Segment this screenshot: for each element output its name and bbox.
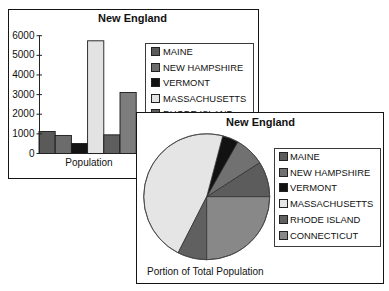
legend-swatch [151, 63, 160, 72]
legend-swatch [279, 168, 288, 177]
legend-item-new-hampshire: NEW HAMPSHIRE [275, 164, 380, 180]
bar-vermont [71, 143, 87, 153]
legend-label: CONNECTICUT [290, 230, 358, 241]
legend-swatch [279, 231, 288, 240]
y-tick-label: 0 [9, 148, 35, 160]
pie-chart[interactable]: New England MAINE NEW HAMPSHIRE VERMONT … [136, 112, 384, 284]
legend-item-massachusetts: MASSACHUSETTS [275, 196, 380, 212]
legend-swatch [279, 152, 288, 161]
legend-swatch [151, 47, 160, 56]
pie-chart-caption: Portion of Total Population [147, 266, 264, 278]
legend-swatch [279, 183, 288, 192]
legend-label: MASSACHUSETTS [163, 93, 246, 104]
y-tick-label: 5000 [9, 49, 35, 61]
bar-massachusetts [88, 41, 104, 154]
legend-label: RHODE ISLAND [290, 214, 360, 225]
pie-chart-title: New England [200, 116, 321, 129]
legend-item-massachusetts: MASSACHUSETTS [146, 91, 253, 107]
legend-label: MAINE [163, 46, 193, 57]
legend-item-rhode-island: RHODE ISLAND [275, 212, 380, 228]
canvas: New England 6000 5000 4000 3000 2000 100… [0, 0, 389, 291]
legend-item-new-hampshire: NEW HAMPSHIRE [146, 60, 253, 76]
pie-slice-connecticut [207, 197, 270, 260]
pie-chart-legend: MAINE NEW HAMPSHIRE VERMONT MASSACHUSETT… [274, 148, 381, 247]
legend-swatch [151, 94, 160, 103]
bar-connecticut [120, 92, 136, 153]
bar-new-hampshire [55, 135, 71, 153]
legend-label: VERMONT [290, 182, 337, 193]
legend-item-maine: MAINE [275, 149, 380, 165]
legend-label: NEW HAMPSHIRE [290, 167, 370, 178]
legend-item-vermont: VERMONT [146, 75, 253, 91]
y-tick-label: 4000 [9, 69, 35, 81]
legend-swatch [151, 78, 160, 87]
legend-item-maine: MAINE [146, 44, 253, 60]
legend-label: NEW HAMPSHIRE [163, 62, 243, 73]
legend-item-vermont: VERMONT [275, 180, 380, 196]
y-tick-label: 1000 [9, 128, 35, 140]
bar-rhode-island [104, 135, 120, 154]
legend-label: VERMONT [163, 77, 210, 88]
x-axis-label: Population [59, 157, 119, 169]
y-tick-label: 3000 [9, 89, 35, 101]
legend-item-connecticut: CONNECTICUT [275, 227, 380, 243]
legend-label: MAINE [290, 151, 320, 162]
legend-swatch [279, 215, 288, 224]
y-tick-label: 2000 [9, 108, 35, 120]
bar-chart-title: New England [72, 12, 193, 25]
bar-maine [39, 132, 55, 154]
legend-label: MASSACHUSETTS [290, 198, 373, 209]
legend-swatch [279, 199, 288, 208]
y-tick-label: 6000 [9, 30, 35, 42]
